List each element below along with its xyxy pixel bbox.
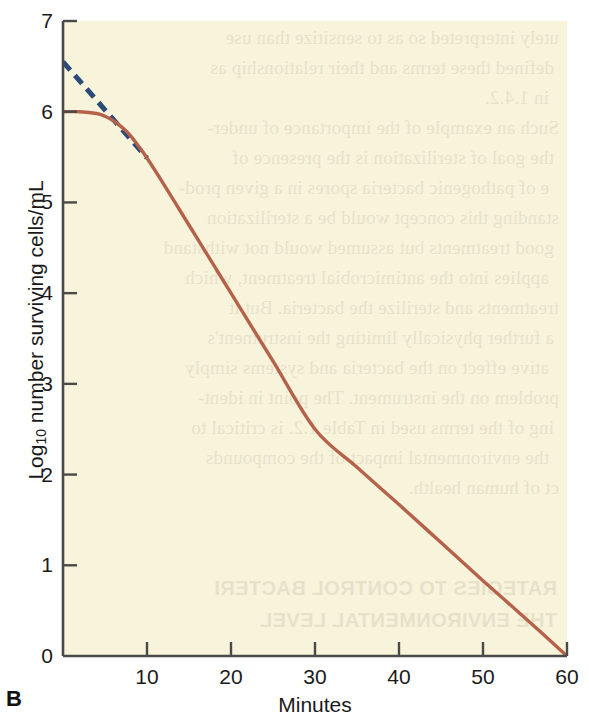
y-axis-title: Log10 number surviving cells/mL [25,10,49,650]
figure-panel-b: utely interpreted so as to sensitize tha… [0,0,589,720]
axis-lines [63,21,567,656]
x-tick-label-60: 60 [544,666,589,687]
y-axis-title-subscript: 10 [33,429,49,445]
x-tick-label-50: 50 [460,666,506,687]
x-tick-label-30: 30 [292,666,338,687]
y-axis-title-prefix: Log [24,445,47,480]
x-axis-tick-labels: 102030405060 [0,666,589,692]
x-tick-label-10: 10 [124,666,170,687]
x-tick-label-40: 40 [376,666,422,687]
tick-marks [63,21,567,656]
y-axis-title-suffix: number surviving cells/mL [24,180,47,429]
x-tick-label-20: 20 [208,666,254,687]
axes [0,0,589,720]
panel-letter: B [6,688,22,710]
x-axis-title: Minutes [63,694,567,716]
